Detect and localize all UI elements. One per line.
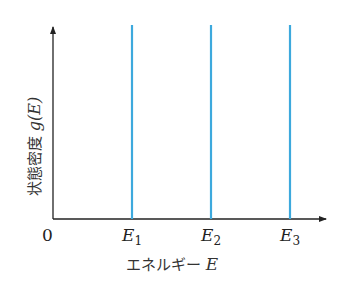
density-of-states-diagram: 0 E1 E2 E3 エネルギー E 状態密度 g(E) (0, 0, 345, 282)
origin-label: 0 (42, 225, 53, 245)
x-axis-label: エネルギー E (126, 254, 219, 274)
tick-label-e1: E1 (121, 225, 142, 248)
tick-label-e2: E2 (200, 225, 221, 248)
tick-label-e3: E3 (279, 225, 300, 248)
y-axis-label: 状態密度 g(E) (25, 97, 44, 196)
